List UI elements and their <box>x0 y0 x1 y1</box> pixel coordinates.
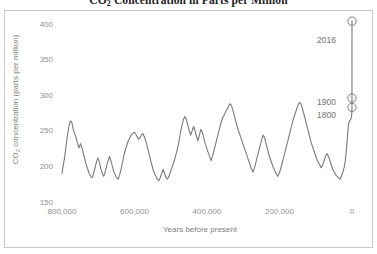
annotation-label-1800: 1800 <box>296 110 336 120</box>
annotation-label-2016: 2016 <box>296 35 336 45</box>
annotation-label-1900: 1900 <box>296 97 336 107</box>
co2-concentration-chart: CO2 Concentration in Parts per Million C… <box>0 0 377 254</box>
